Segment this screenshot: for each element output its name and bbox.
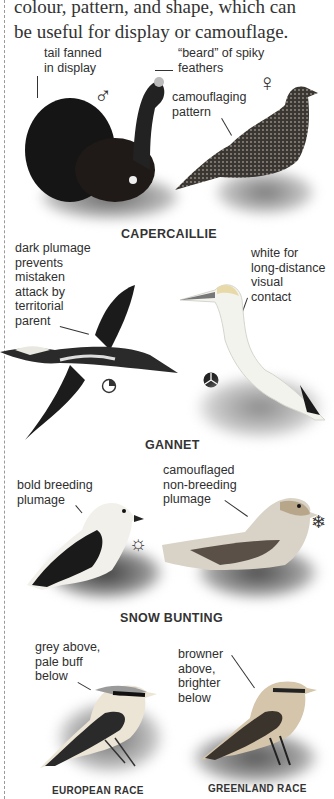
caption-capercaillie: CAPERCAILLIE	[121, 227, 217, 241]
intro-line-2: be useful for display or camouflage.	[14, 19, 334, 44]
winter-snowflake-icon: ❄	[311, 511, 326, 533]
caption-greenland-race: GREENLAND RACE	[208, 783, 307, 794]
non-breeding-snow-bunting-image	[160, 470, 320, 590]
european-wheatear-image	[35, 648, 160, 778]
intro-paragraph: colour, pattern, and shape, which can be…	[14, 0, 334, 44]
caption-european-race: EUROPEAN RACE	[52, 785, 144, 796]
adult-gannet-image	[175, 270, 331, 430]
female-capercaillie-image	[170, 65, 320, 195]
male-capercaillie-image	[15, 60, 175, 210]
juvenile-icon	[101, 378, 117, 394]
caption-snow-bunting: SNOW BUNTING	[120, 611, 223, 625]
caption-gannet: GANNET	[145, 438, 200, 452]
juvenile-gannet-image	[0, 255, 185, 455]
summer-sun-icon: ☼	[129, 532, 147, 554]
greenland-wheatear-image	[195, 650, 320, 770]
intro-line-1: colour, pattern, and shape, which can	[14, 0, 334, 19]
